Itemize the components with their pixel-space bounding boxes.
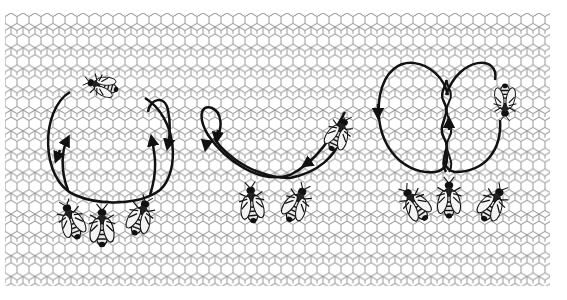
bee-dance-figure [0, 0, 567, 300]
arrow-icon [206, 140, 207, 146]
figure-canvas [0, 0, 567, 300]
honeycomb-background [5, 13, 550, 286]
arrow-icon [217, 130, 218, 138]
